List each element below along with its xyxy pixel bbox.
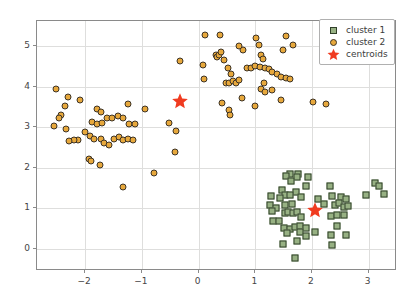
- y-tick-label: 5: [14, 40, 30, 50]
- data-point-cluster-1: [340, 212, 347, 219]
- data-point-cluster-2: [64, 94, 71, 101]
- data-point-cluster-1: [328, 242, 335, 249]
- x-tick-label: −2: [78, 276, 91, 286]
- data-point-cluster-2: [227, 70, 234, 77]
- data-point-cluster-2: [283, 33, 290, 40]
- data-point-cluster-1: [303, 224, 310, 231]
- data-point-cluster-1: [287, 178, 294, 185]
- gridline-vertical: [142, 21, 143, 269]
- x-tick-label: 2: [308, 276, 314, 286]
- data-point-cluster-2: [55, 115, 62, 122]
- data-point-cluster-2: [151, 169, 158, 176]
- data-point-cluster-2: [202, 31, 209, 38]
- data-point-cluster-2: [217, 32, 224, 39]
- data-point-cluster-2: [61, 103, 68, 110]
- data-point-cluster-2: [119, 184, 126, 191]
- gridline-horizontal: [37, 127, 395, 128]
- data-point-cluster-1: [342, 231, 349, 238]
- y-tick-mark: [33, 126, 36, 127]
- legend-label-centroids: centroids: [341, 49, 388, 59]
- data-point-cluster-2: [252, 103, 259, 110]
- x-tick-mark: [84, 270, 85, 273]
- data-point-cluster-1: [333, 223, 340, 230]
- x-tick-label: 0: [195, 276, 201, 286]
- x-tick-mark: [311, 270, 312, 273]
- data-point-cluster-2: [171, 149, 178, 156]
- x-tick-label: 3: [365, 276, 371, 286]
- data-point-cluster-2: [62, 126, 69, 133]
- x-tick-mark: [198, 270, 199, 273]
- legend-label-cluster-1: cluster 1: [341, 25, 385, 35]
- data-point-cluster-2: [52, 86, 59, 93]
- data-point-cluster-1: [297, 193, 304, 200]
- data-point-cluster-1: [302, 233, 309, 240]
- x-tick-label: 1: [251, 276, 257, 286]
- gridline-vertical: [199, 21, 200, 269]
- data-point-cluster-2: [236, 77, 243, 84]
- data-point-cluster-1: [284, 230, 291, 237]
- data-point-cluster-2: [129, 137, 136, 144]
- data-point-cluster-2: [125, 101, 132, 108]
- data-point-cluster-1: [286, 192, 293, 199]
- circle-marker-icon: [325, 39, 341, 46]
- gridline-horizontal: [37, 168, 395, 169]
- data-point-cluster-1: [275, 217, 282, 224]
- gridline-horizontal: [37, 87, 395, 88]
- data-point-cluster-2: [309, 98, 316, 105]
- x-tick-mark: [141, 270, 142, 273]
- data-point-cluster-2: [200, 62, 207, 69]
- y-tick-mark: [33, 167, 36, 168]
- data-point-cluster-1: [362, 191, 369, 198]
- data-point-cluster-2: [132, 121, 139, 128]
- y-tick-mark: [33, 86, 36, 87]
- data-point-cluster-2: [256, 41, 263, 48]
- y-tick-mark: [33, 207, 36, 208]
- y-tick-label: 3: [14, 121, 30, 131]
- legend-item-cluster-2[interactable]: cluster 2: [325, 36, 388, 48]
- y-tick-label: 2: [14, 162, 30, 172]
- data-point-cluster-1: [276, 195, 283, 202]
- data-point-cluster-1: [294, 173, 301, 180]
- data-point-cluster-2: [259, 56, 266, 63]
- data-point-cluster-1: [297, 214, 304, 221]
- data-point-cluster-2: [218, 99, 225, 106]
- data-point-cluster-2: [201, 76, 208, 83]
- data-point-cluster-2: [269, 86, 276, 93]
- data-point-cluster-2: [218, 49, 225, 56]
- data-point-cluster-2: [236, 43, 243, 50]
- square-marker-icon: [325, 27, 341, 34]
- data-point-cluster-1: [302, 182, 309, 189]
- y-tick-label: 1: [14, 202, 30, 212]
- x-tick-label: −1: [134, 276, 147, 286]
- y-tick-mark: [33, 45, 36, 46]
- data-point-cluster-2: [141, 105, 148, 112]
- legend-item-cluster-1[interactable]: cluster 1: [325, 24, 388, 36]
- y-tick-label: 0: [14, 243, 30, 253]
- data-point-cluster-2: [119, 115, 126, 122]
- data-point-cluster-1: [294, 237, 301, 244]
- data-point-cluster-2: [172, 128, 179, 135]
- y-tick-label: 4: [14, 81, 30, 91]
- data-point-cluster-2: [66, 137, 73, 144]
- data-point-cluster-2: [166, 119, 173, 126]
- data-point-cluster-2: [278, 96, 285, 103]
- data-point-cluster-2: [323, 101, 330, 108]
- data-point-cluster-1: [269, 208, 276, 215]
- star-marker-icon: [325, 48, 341, 61]
- gridline-vertical: [255, 21, 256, 269]
- data-point-cluster-1: [288, 201, 295, 208]
- data-point-cluster-1: [344, 203, 351, 210]
- data-point-cluster-2: [287, 75, 294, 82]
- legend-item-centroids[interactable]: centroids: [325, 48, 388, 60]
- data-point-cluster-2: [77, 96, 84, 103]
- data-point-cluster-2: [176, 57, 183, 64]
- data-point-cluster-2: [97, 109, 104, 116]
- data-point-cluster-1: [327, 231, 334, 238]
- data-point-cluster-1: [375, 182, 382, 189]
- data-point-cluster-2: [87, 157, 94, 164]
- legend: cluster 1 cluster 2 centroids: [319, 19, 395, 65]
- x-tick-mark: [368, 270, 369, 273]
- data-point-cluster-1: [312, 228, 319, 235]
- data-point-cluster-1: [280, 241, 287, 248]
- gridline-horizontal: [37, 249, 395, 250]
